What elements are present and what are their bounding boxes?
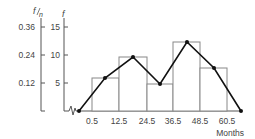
histogram-bars (92, 42, 227, 111)
bar-0.5-12.5 (92, 78, 119, 111)
x-tick-36.5: 36.5 (165, 116, 182, 126)
x-tick-0.5: 0.5 (86, 116, 98, 126)
x-axis-title: Months (216, 128, 244, 138)
x-tick-60.5: 60.5 (219, 116, 236, 126)
left-axis-title-f: f (33, 6, 37, 16)
right-axis: 15 10 5 f (51, 9, 68, 111)
left-tick-024: 0.24 (18, 50, 35, 60)
bar-48.5-60.5 (200, 68, 227, 111)
right-tick-15: 15 (51, 22, 61, 32)
histogram-chart: 0.36 0.24 0.12 f n 15 10 5 f (0, 0, 255, 139)
x-tick-labels: 0.5 12.5 24.5 36.5 48.5 60.5 Months (86, 116, 244, 138)
x-tick-24.5: 24.5 (139, 116, 156, 126)
right-axis-title: f (62, 9, 66, 19)
left-axis-title-n: n (39, 11, 43, 18)
bar-36.5-48.5 (173, 42, 200, 111)
x-tick-48.5: 48.5 (192, 116, 209, 126)
x-tick-12.5: 12.5 (111, 116, 128, 126)
left-tick-036: 0.36 (18, 22, 35, 32)
right-tick-10: 10 (51, 50, 61, 60)
right-tick-5: 5 (55, 78, 60, 88)
left-axis: 0.36 0.24 0.12 f n (18, 6, 45, 111)
bar-24.5-36.5 (147, 84, 173, 111)
left-tick-012: 0.12 (18, 78, 35, 88)
